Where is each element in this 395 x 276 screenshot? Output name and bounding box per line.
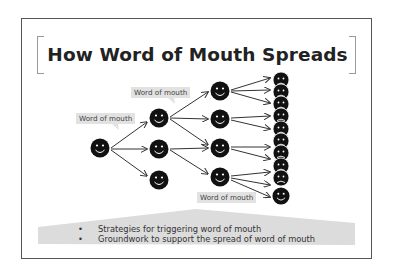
face-icon <box>150 109 169 128</box>
face-icon-origin <box>91 139 110 158</box>
bullet-marker: • <box>78 224 98 234</box>
bullet-text: Strategies for triggering word of mouth <box>98 224 261 234</box>
word-of-mouth-label: Word of mouth <box>76 113 135 124</box>
face-stack <box>272 72 289 205</box>
face-icon <box>211 82 230 101</box>
word-of-mouth-label: Word of mouth <box>197 192 256 203</box>
face-icon <box>150 171 169 190</box>
bullet-item: • Groundwork to support the spread of wo… <box>78 234 315 244</box>
face-icon <box>211 168 230 187</box>
bullet-item: • Strategies for triggering word of mout… <box>78 224 315 234</box>
face-icon <box>150 140 169 159</box>
bullet-list: • Strategies for triggering word of mout… <box>78 224 315 244</box>
face-icon <box>211 139 230 158</box>
bullet-marker: • <box>78 234 98 244</box>
word-of-mouth-label: Word of mouth <box>131 87 190 98</box>
face-icon <box>211 110 230 129</box>
bullet-text: Groundwork to support the spread of word… <box>98 234 315 244</box>
